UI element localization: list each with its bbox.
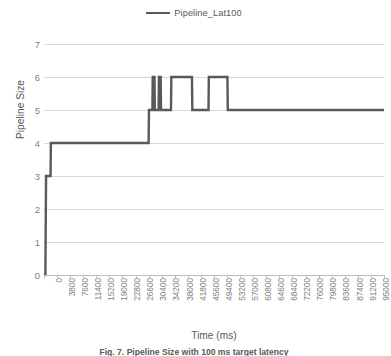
plot-area bbox=[44, 44, 384, 275]
figure-caption: Fig. 7. Pipeline Size with 100 ms target… bbox=[0, 347, 388, 356]
x-tick-label: 22800 bbox=[132, 278, 142, 301]
series-plot-pipeline-lat100 bbox=[44, 44, 384, 275]
x-tick-label: 15200 bbox=[106, 278, 116, 301]
x-tick-label: 76000 bbox=[315, 278, 325, 301]
x-tick-label: 87400 bbox=[355, 278, 365, 301]
x-tick-label: 7600 bbox=[80, 278, 90, 296]
x-tick-label: 57000 bbox=[250, 278, 260, 301]
x-tick-label: 45600 bbox=[211, 278, 221, 301]
x-tick-label: 64600 bbox=[276, 278, 286, 301]
x-axis-title: Time (ms) bbox=[44, 330, 384, 341]
x-tick-label: 26600 bbox=[145, 278, 155, 301]
x-tick-label: 41800 bbox=[198, 278, 208, 301]
x-tick-label: 72200 bbox=[302, 278, 312, 301]
x-tick-label: 53200 bbox=[237, 278, 247, 301]
y-tick-label: 2 bbox=[8, 204, 44, 215]
x-tick-label: 19000 bbox=[119, 278, 129, 301]
x-tick-label: 79800 bbox=[328, 278, 338, 301]
x-tick-label: 3800 bbox=[67, 278, 77, 296]
y-tick-label: 3 bbox=[8, 171, 44, 182]
x-tick-label: 34200 bbox=[171, 278, 181, 301]
y-tick-label: 6 bbox=[8, 72, 44, 83]
x-tick-label: 49400 bbox=[224, 278, 234, 301]
x-tick-label: 60800 bbox=[263, 278, 273, 301]
y-tick-label: 0 bbox=[8, 270, 44, 281]
x-tick-label: 0 bbox=[54, 278, 64, 283]
y-tick-label: 4 bbox=[8, 138, 44, 149]
x-tick-label: 30400 bbox=[158, 278, 168, 301]
x-tick-label: 83600 bbox=[341, 278, 351, 301]
x-tick-label: 95000 bbox=[381, 278, 391, 301]
y-tick-label: 5 bbox=[8, 105, 44, 116]
x-tick-label: 68400 bbox=[289, 278, 299, 301]
y-tick-label: 7 bbox=[8, 39, 44, 50]
y-axis-title: Pipeline Size bbox=[15, 10, 26, 210]
y-tick-label: 1 bbox=[8, 237, 44, 248]
x-tick-label: 91200 bbox=[368, 278, 378, 301]
x-tick-label: 38000 bbox=[185, 278, 195, 301]
x-tick-label: 11400 bbox=[93, 278, 103, 300]
series-line-pipeline-lat100 bbox=[44, 77, 384, 275]
x-axis-tick-labels: 0380076001140015200190002280026600304003… bbox=[44, 278, 384, 332]
